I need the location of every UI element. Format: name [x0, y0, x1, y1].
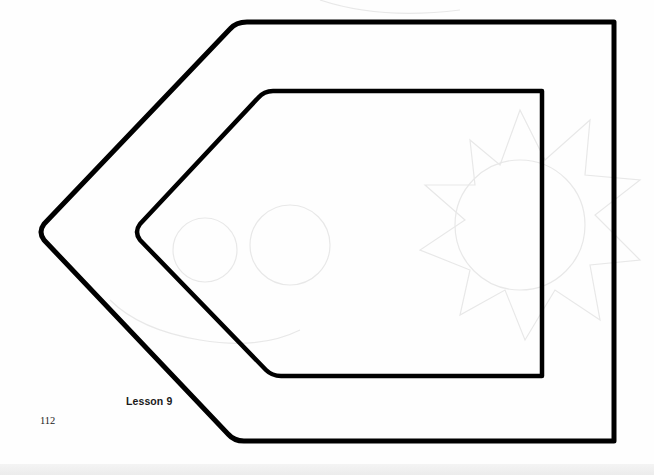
inner-pentagon-outline [137, 91, 542, 376]
page-number: 112 [40, 415, 55, 426]
workbook-page: Lesson 9 112 [0, 0, 654, 475]
nested-pentagon-figure [0, 0, 654, 475]
lesson-label: Lesson 9 [126, 395, 172, 407]
page-bottom-edge [0, 464, 654, 475]
